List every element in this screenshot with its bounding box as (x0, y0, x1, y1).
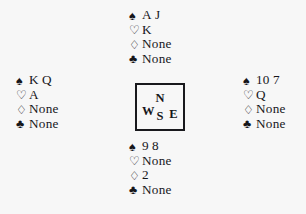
suit-row-club: ♣None (16, 117, 59, 132)
cards-club: None (142, 183, 172, 198)
suit-row-heart: ♡A (16, 88, 59, 103)
cards-club: None (256, 117, 286, 132)
spade-icon: ♠ (16, 74, 29, 89)
suit-row-diamond: ♢None (243, 102, 286, 117)
cards-spade: 98 (142, 139, 159, 154)
club-icon: ♣ (16, 117, 29, 132)
diamond-icon: ♢ (129, 169, 142, 184)
heart-icon: ♡ (16, 88, 29, 103)
card-rank: K (29, 72, 39, 87)
bridge-hand-diagram: ♠AJ♡K♢None♣None ♠KQ♡A♢None♣None ♠107♡Q♢N… (0, 0, 306, 214)
card-rank: None (142, 182, 172, 197)
cards-club: None (142, 52, 172, 67)
cards-spade: 107 (256, 73, 280, 88)
hand-west: ♠KQ♡A♢None♣None (16, 73, 59, 131)
hand-north: ♠AJ♡K♢None♣None (129, 8, 172, 66)
suit-row-spade: ♠98 (129, 139, 172, 154)
cards-diamond: None (256, 102, 286, 117)
suit-row-diamond: ♢None (16, 102, 59, 117)
cards-heart: None (142, 154, 172, 169)
diamond-icon: ♢ (16, 103, 29, 118)
card-rank: K (142, 22, 152, 37)
compass-label-north: N (137, 92, 183, 105)
club-icon: ♣ (243, 117, 256, 132)
cards-heart: Q (256, 88, 266, 103)
cards-heart: K (142, 23, 152, 38)
card-rank: 8 (152, 138, 159, 153)
card-rank: None (142, 51, 172, 66)
suit-row-spade: ♠KQ (16, 73, 59, 88)
cards-diamond: None (29, 102, 59, 117)
compass-box: N W E S (135, 83, 185, 131)
club-icon: ♣ (129, 183, 142, 198)
card-rank: None (256, 101, 286, 116)
cards-spade: AJ (142, 8, 160, 23)
suit-row-club: ♣None (243, 117, 286, 132)
suit-row-club: ♣None (129, 52, 172, 67)
spade-icon: ♠ (129, 140, 142, 155)
spade-icon: ♠ (129, 9, 142, 24)
card-rank: Q (256, 87, 266, 102)
card-rank: None (142, 153, 172, 168)
card-rank: A (142, 7, 152, 22)
compass-label-south: S (137, 110, 183, 123)
suit-row-heart: ♡Q (243, 88, 286, 103)
card-rank: 9 (142, 138, 149, 153)
spade-icon: ♠ (243, 74, 256, 89)
card-rank: None (29, 116, 59, 131)
heart-icon: ♡ (243, 88, 256, 103)
cards-diamond: None (142, 37, 172, 52)
suit-row-heart: ♡K (129, 23, 172, 38)
suit-row-spade: ♠107 (243, 73, 286, 88)
hand-east: ♠107♡Q♢None♣None (243, 73, 286, 131)
suit-row-diamond: ♢None (129, 37, 172, 52)
heart-icon: ♡ (129, 154, 142, 169)
diamond-icon: ♢ (129, 38, 142, 53)
card-rank: J (155, 7, 160, 22)
cards-spade: KQ (29, 73, 52, 88)
diamond-icon: ♢ (243, 103, 256, 118)
card-rank: 2 (142, 167, 149, 182)
card-rank: None (142, 36, 172, 51)
hand-south: ♠98♡None♢2♣None (129, 139, 172, 197)
suit-row-heart: ♡None (129, 154, 172, 169)
cards-club: None (29, 117, 59, 132)
cards-heart: A (29, 88, 39, 103)
heart-icon: ♡ (129, 23, 142, 38)
cards-diamond: 2 (142, 168, 149, 183)
club-icon: ♣ (129, 52, 142, 67)
card-rank: Q (42, 72, 52, 87)
card-rank: None (29, 101, 59, 116)
card-rank: 10 (256, 72, 270, 87)
suit-row-spade: ♠AJ (129, 8, 172, 23)
card-rank: A (29, 87, 39, 102)
suit-row-club: ♣None (129, 183, 172, 198)
suit-row-diamond: ♢2 (129, 168, 172, 183)
card-rank: 7 (273, 72, 280, 87)
card-rank: None (256, 116, 286, 131)
